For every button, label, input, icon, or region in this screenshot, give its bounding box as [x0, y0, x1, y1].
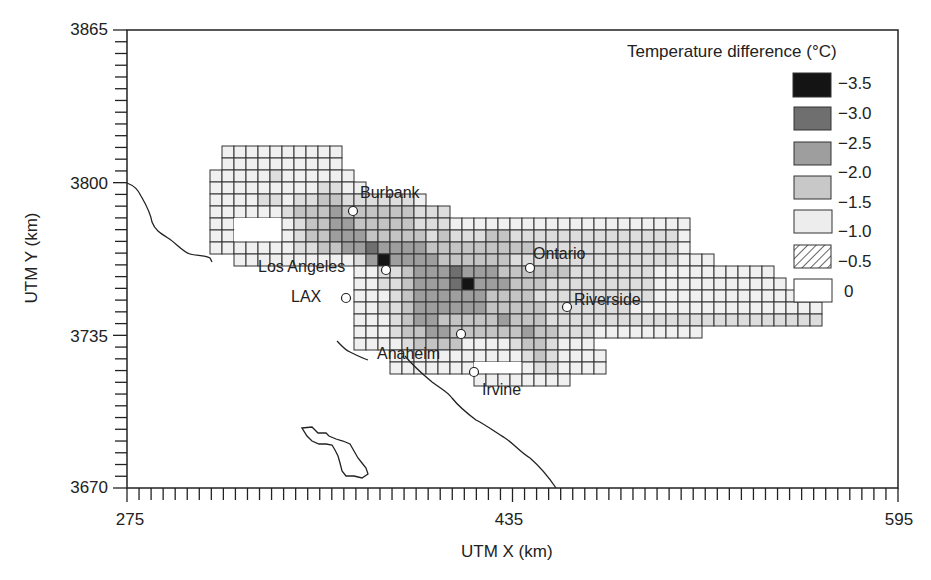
grid-cell: [522, 302, 534, 314]
grid-cell: [378, 254, 390, 266]
grid-cell: [330, 170, 342, 182]
grid-cell: [474, 242, 486, 254]
grid-cell: [462, 350, 474, 362]
grid-cell: [774, 302, 786, 314]
grid-cell: [342, 218, 354, 230]
x-tick-435: 435: [479, 510, 539, 530]
grid-cell: [750, 278, 762, 290]
legend-label-1-0: −1.0: [838, 222, 872, 242]
grid-cell: [366, 218, 378, 230]
grid-cell: [402, 302, 414, 314]
grid-cell: [762, 302, 774, 314]
grid-cell: [594, 326, 606, 338]
grid-cell: [258, 194, 270, 206]
grid-cell: [330, 230, 342, 242]
grid-cell: [498, 230, 510, 242]
grid-cell: [354, 254, 366, 266]
grid-cell: [498, 302, 510, 314]
grid-cell: [306, 182, 318, 194]
grid-cell: [762, 278, 774, 290]
grid-cell: [354, 230, 366, 242]
grid-cell: [246, 170, 258, 182]
city-label-los-angeles: Los Angeles: [258, 258, 345, 276]
grid-cell: [450, 338, 462, 350]
grid-cell: [306, 230, 318, 242]
grid-cell: [558, 266, 570, 278]
grid-cell: [222, 242, 234, 254]
grid-cell: [486, 290, 498, 302]
grid-cell: [390, 314, 402, 326]
grid-cell: [534, 362, 546, 374]
grid-cell: [642, 218, 654, 230]
grid-cell: [426, 218, 438, 230]
grid-cell: [678, 290, 690, 302]
grid-cell: [750, 290, 762, 302]
grid-cell: [462, 338, 474, 350]
grid-cell: [666, 314, 678, 326]
x-axis-title: UTM X (km): [461, 542, 553, 562]
grid-cell: [294, 218, 306, 230]
grid-cell: [330, 242, 342, 254]
grid-cell: [450, 218, 462, 230]
grid-cell: [402, 206, 414, 218]
grid-cell: [402, 326, 414, 338]
grid-cell: [594, 362, 606, 374]
heatmap-chart: [0, 0, 931, 580]
grid-cell: [726, 266, 738, 278]
lax-marker: [342, 294, 351, 303]
grid-cell: [342, 182, 354, 194]
grid-cell: [582, 266, 594, 278]
grid-cell: [258, 158, 270, 170]
grid-cell: [642, 326, 654, 338]
grid-cell: [546, 278, 558, 290]
grid-cell: [510, 290, 522, 302]
grid-cell: [402, 218, 414, 230]
grid-cell: [522, 338, 534, 350]
grid-cell: [486, 362, 498, 374]
grid-cell: [234, 254, 246, 266]
los-angeles-marker: [382, 266, 391, 275]
grid-cell: [714, 278, 726, 290]
y-tick-3865: 3865: [48, 20, 108, 40]
grid-cell: [246, 254, 258, 266]
grid-cell: [222, 182, 234, 194]
grid-cell: [306, 170, 318, 182]
grid-cell: [246, 218, 258, 230]
grid-cell: [282, 170, 294, 182]
grid-cell: [606, 266, 618, 278]
grid-cell: [618, 278, 630, 290]
grid-cell: [726, 302, 738, 314]
grid-cell: [438, 362, 450, 374]
grid-cell: [378, 242, 390, 254]
legend-swatch-1-5: [794, 210, 832, 233]
grid-cell: [714, 314, 726, 326]
grid-cell: [498, 290, 510, 302]
grid-cell: [438, 266, 450, 278]
grid-cell: [810, 302, 822, 314]
grid-cell: [690, 326, 702, 338]
grid-cell: [474, 254, 486, 266]
grid-cell: [594, 278, 606, 290]
grid-cell: [606, 242, 618, 254]
grid-cell: [738, 302, 750, 314]
grid-cell: [642, 314, 654, 326]
grid-cell: [426, 230, 438, 242]
grid-cell: [462, 278, 474, 290]
grid-cell: [378, 230, 390, 242]
grid-cell: [510, 362, 522, 374]
grid-cell: [522, 290, 534, 302]
grid-cell: [570, 350, 582, 362]
grid-cell: [438, 278, 450, 290]
grid-cell: [402, 290, 414, 302]
grid-cell: [474, 314, 486, 326]
grid-cell: [510, 326, 522, 338]
grid-cell: [486, 302, 498, 314]
grid-cell: [378, 278, 390, 290]
grid-cell: [570, 218, 582, 230]
grid-cell: [414, 290, 426, 302]
grid-cell: [378, 302, 390, 314]
grid-cell: [606, 218, 618, 230]
grid-cell: [498, 218, 510, 230]
grid-cell: [282, 194, 294, 206]
grid-cell: [630, 242, 642, 254]
